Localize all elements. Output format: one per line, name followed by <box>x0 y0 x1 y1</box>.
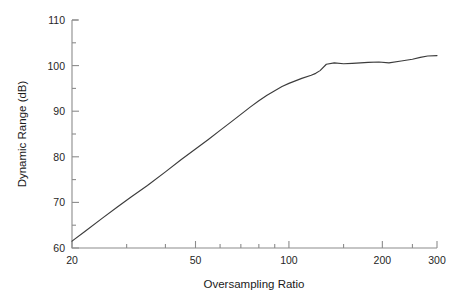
y-tick-label: 90 <box>53 105 65 117</box>
x-tick-label: 300 <box>428 254 446 266</box>
x-axis-title: Oversampling Ratio <box>204 278 305 290</box>
x-tick-label: 200 <box>374 254 392 266</box>
plot-canvas: 2050100200300 60708090100110 Oversamplin… <box>0 0 461 303</box>
y-tick-label: 110 <box>48 14 65 26</box>
y-tick-label: 60 <box>53 242 65 254</box>
y-tick-label: 100 <box>47 60 65 72</box>
y-axis-title: Dynamic Range (dB) <box>16 80 28 187</box>
x-tick-label: 100 <box>280 254 298 266</box>
y-tick-label: 70 <box>53 196 65 208</box>
x-tick-label: 20 <box>66 254 78 266</box>
y-tick-label: 80 <box>53 151 65 163</box>
x-tick-label: 50 <box>190 254 202 266</box>
chart-figure: 2050100200300 60708090100110 Oversamplin… <box>0 0 461 303</box>
